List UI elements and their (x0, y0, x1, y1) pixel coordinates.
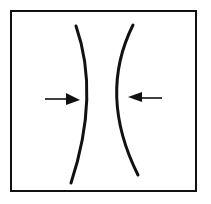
diagram-canvas (0, 0, 211, 204)
left-arrow-icon (45, 93, 80, 105)
frame (11, 11, 196, 191)
right-arrow-icon (128, 92, 162, 102)
left-curve (71, 26, 87, 183)
right-curve (117, 25, 138, 175)
